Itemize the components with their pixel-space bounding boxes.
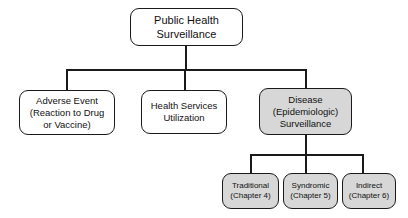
node-indirect[interactable]: Indirect (Chapter 6) <box>342 173 396 209</box>
node-label-line: Surveillance <box>157 27 217 41</box>
edge-drop-indirect <box>362 154 364 174</box>
node-label-line: (Reaction to Drug <box>30 107 104 119</box>
node-label-line: Syndromic <box>292 181 330 192</box>
node-public-health-surveillance[interactable]: Public Health Surveillance <box>130 8 243 46</box>
edge-upper-bus <box>66 69 307 71</box>
node-health-services-utilization[interactable]: Health Services Utilization <box>141 90 227 134</box>
node-label-line: Traditional <box>232 181 269 192</box>
node-label-line: (Chapter 5) <box>290 191 330 202</box>
node-label-line: Disease <box>288 94 322 106</box>
edge-drop-traditional <box>250 154 252 174</box>
edge-drop-health-services <box>184 69 186 91</box>
node-label-line: (Chapter 6) <box>349 191 389 202</box>
node-label-line: Utilization <box>163 112 204 124</box>
node-adverse-event[interactable]: Adverse Event (Reaction to Drug or Vacci… <box>19 90 115 135</box>
edge-drop-disease <box>305 69 307 89</box>
edge-root-stem <box>185 45 187 71</box>
node-label-line: Adverse Event <box>36 95 98 107</box>
edge-drop-adverse-event <box>66 69 68 91</box>
edge-disease-stem <box>305 134 307 156</box>
node-syndromic[interactable]: Syndromic (Chapter 5) <box>283 173 338 209</box>
node-label-line: Indirect <box>356 181 382 192</box>
node-label-line: Health Services <box>151 100 218 112</box>
node-label-line: (Epidemiologic) <box>273 106 338 118</box>
edge-drop-syndromic <box>305 154 307 174</box>
diagram-canvas: Public Health Surveillance Adverse Event… <box>0 0 408 218</box>
node-label-line: or Vaccine) <box>43 119 90 131</box>
node-traditional[interactable]: Traditional (Chapter 4) <box>222 173 279 209</box>
node-disease-epidemiologic-surveillance[interactable]: Disease (Epidemiologic) Surveillance <box>259 88 352 135</box>
node-label-line: Public Health <box>154 13 219 27</box>
node-label-line: (Chapter 4) <box>230 191 270 202</box>
node-label-line: Surveillance <box>280 118 332 130</box>
